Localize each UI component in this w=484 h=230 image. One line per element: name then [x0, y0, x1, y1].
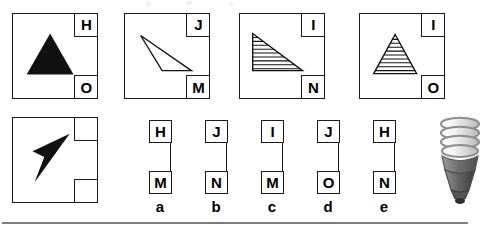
- option-b-top-label: J: [205, 120, 228, 143]
- answer-option-b[interactable]: J N b: [194, 120, 238, 194]
- answer-option-d[interactable]: J O d: [306, 120, 350, 194]
- compact-fluorescent-bulb-icon: [432, 116, 484, 212]
- option-d-top-label: J: [317, 120, 340, 143]
- stimulus-panel-2: J M: [124, 13, 210, 99]
- option-a-key: a: [138, 198, 182, 215]
- scan-speck: [186, 1, 192, 5]
- panel-4-bottom-label: O: [421, 75, 445, 99]
- answer-option-e[interactable]: H N e: [362, 120, 406, 194]
- option-d-key: d: [306, 198, 350, 215]
- option-c-bottom-label: M: [261, 171, 284, 194]
- option-d-bottom-label: O: [317, 171, 340, 194]
- scan-speck: [229, 3, 234, 6]
- panel-2-bottom-label: M: [186, 75, 210, 99]
- panel-3-top-label: I: [301, 13, 325, 37]
- option-a-bottom-label: M: [149, 171, 172, 194]
- stimulus-panel-1: H O: [12, 13, 98, 99]
- stimulus-panel-3: I N: [239, 13, 325, 99]
- panel-2-top-label: J: [186, 13, 210, 37]
- panel-4-top-label: I: [421, 13, 445, 37]
- option-e-key: e: [362, 198, 406, 215]
- option-b-key: b: [194, 198, 238, 215]
- answer-option-a[interactable]: H M a: [138, 120, 182, 194]
- option-a-top-label: H: [149, 120, 172, 143]
- question-panel: [12, 117, 98, 203]
- panel-3-bottom-label: N: [301, 75, 325, 99]
- option-e-bottom-label: N: [373, 171, 396, 194]
- option-c-top-label: I: [261, 120, 284, 143]
- footer-divider: [2, 222, 468, 224]
- question-bottom-label: [74, 179, 98, 203]
- option-e-top-label: H: [373, 120, 396, 143]
- panel-1-bottom-label: O: [74, 75, 98, 99]
- answer-option-c[interactable]: I M c: [250, 120, 294, 194]
- option-b-bottom-label: N: [205, 171, 228, 194]
- stimulus-panel-4: I O: [359, 13, 445, 99]
- option-c-key: c: [250, 198, 294, 215]
- scan-speck: [146, 2, 151, 6]
- question-top-label: [74, 117, 98, 141]
- panel-1-top-label: H: [74, 13, 98, 37]
